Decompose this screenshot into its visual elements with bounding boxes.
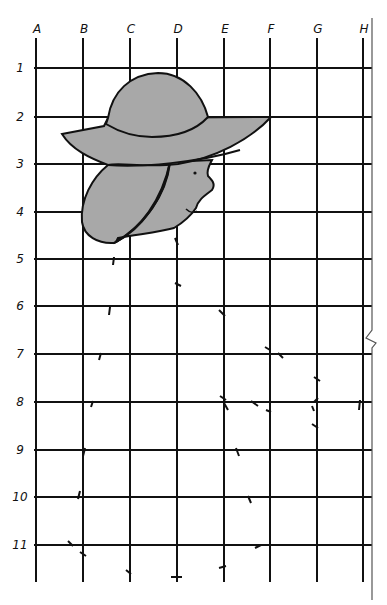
row-label: 7 — [16, 348, 24, 360]
row-label: 2 — [16, 111, 24, 123]
column-label: C — [127, 23, 135, 35]
right-border-line — [366, 18, 376, 600]
row-label: 8 — [16, 396, 24, 408]
column-label: D — [173, 23, 182, 35]
row-label: 5 — [16, 253, 24, 265]
row-label: 10 — [12, 491, 27, 503]
grid-drawing — [0, 0, 387, 605]
column-label: E — [221, 23, 229, 35]
column-label: F — [268, 23, 275, 35]
column-label: H — [359, 23, 368, 35]
hat-crown — [106, 73, 208, 137]
row-label: 11 — [12, 539, 27, 551]
column-label: B — [80, 23, 88, 35]
eye — [193, 171, 196, 174]
column-label: A — [33, 23, 41, 35]
column-label: G — [313, 23, 322, 35]
row-label: 9 — [16, 444, 24, 456]
row-label: 3 — [16, 158, 24, 170]
row-label: 1 — [16, 62, 24, 74]
row-label: 6 — [16, 300, 24, 312]
row-label: 4 — [16, 206, 24, 218]
